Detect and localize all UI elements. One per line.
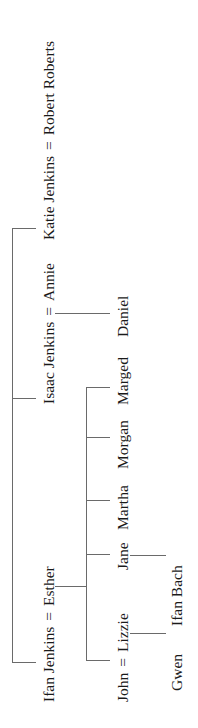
descent-jane [130,555,166,556]
couple-katie-robert: Katie Jenkins=Robert Roberts [40,41,58,240]
person-morgan: Morgan [114,420,132,469]
descent-john-lizzie [130,633,166,634]
marriage-sign: = [40,301,58,322]
person-lizzie: Lizzie [114,613,131,652]
person-john: John [114,673,131,702]
person-isaac-jenkins: Isaac Jenkins [40,322,57,404]
person-ifan-bach: Ifan Bach [168,565,186,626]
person-martha: Martha [114,485,132,530]
children-bracket-vertical [86,387,87,661]
stub-ifan [12,662,36,663]
stub-martha [86,500,110,501]
person-marged: Marged [114,357,132,405]
descent-ifan-esther [55,586,86,587]
person-katie-jenkins: Katie Jenkins [40,156,57,240]
person-daniel: Daniel [114,296,132,337]
stub-john [86,660,110,661]
stub-morgan [86,437,110,438]
marriage-sign: = [40,606,58,627]
marriage-sign: = [40,135,58,156]
person-robert-roberts: Robert Roberts [40,41,57,135]
couple-john-lizzie: John=Lizzie [114,613,132,702]
person-gwen: Gwen [168,654,186,691]
stub-isaac [12,398,36,399]
stub-katie [12,228,36,229]
couple-isaac-annie: Isaac Jenkins=Annie [40,263,58,404]
person-jane: Jane [114,542,132,570]
sibling-bracket-vertical [12,228,13,663]
person-ifan-jenkins: Ifan Jenkins [40,627,57,702]
marriage-sign: = [114,652,132,673]
person-annie: Annie [40,263,57,301]
stub-marged [86,387,110,388]
stub-jane [86,554,110,555]
descent-isaac-annie [55,313,110,314]
